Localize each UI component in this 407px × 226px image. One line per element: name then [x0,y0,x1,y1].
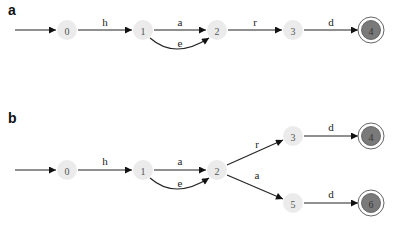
state-label: 3 [291,26,296,37]
state-label: 2 [215,166,220,177]
state-label: 5 [291,199,296,210]
edge-label-b-d2: d [328,188,334,200]
edge-label-a-a: a [178,16,183,28]
edge-label-b-e: e [178,177,183,189]
edge-label-a-h: h [102,16,108,28]
state-label: 1 [141,26,146,37]
edge-label-b-r: r [255,138,259,150]
edge-label-b-a: a [178,155,183,167]
automata-diagram: h a e r d 0 1 2 3 4 h a e r a d d [0,0,407,226]
state-label: 4 [369,26,374,37]
edge-label-a-e: e [178,37,183,49]
state-label: 3 [291,132,296,143]
state-label: 0 [65,26,70,37]
edge-label-b-h: h [102,155,108,167]
edge-label-b-d1: d [328,121,334,133]
state-label: 1 [141,166,146,177]
state-label: 6 [369,199,374,210]
state-label: 0 [65,166,70,177]
state-label: 4 [369,132,374,143]
panel-b: h a e r a d d 0 1 2 3 4 5 6 [15,121,384,216]
edge-label-a-r: r [253,16,257,28]
state-label: 2 [215,26,220,37]
panel-a: h a e r d 0 1 2 3 4 [15,16,384,49]
edge-label-b-a2: a [255,169,260,181]
edge-label-a-d: d [328,16,334,28]
